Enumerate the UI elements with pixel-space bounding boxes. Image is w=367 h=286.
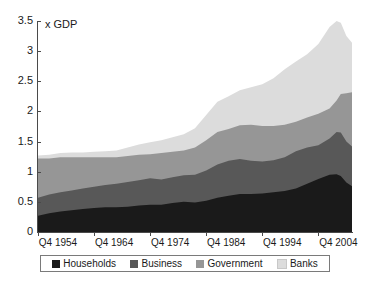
y-tick-label: 2 — [0, 105, 33, 116]
y-tick-label: 0 — [0, 226, 33, 237]
legend-label-households: Households — [63, 259, 116, 269]
plot-area — [38, 21, 352, 232]
y-tick-mark — [37, 142, 41, 143]
legend-swatch-business — [130, 260, 138, 268]
y-tick-label: 0.5 — [0, 196, 33, 207]
y-tick-label: 2.5 — [0, 75, 33, 86]
y-tick-mark — [37, 21, 41, 22]
legend-item-households: Households — [52, 259, 116, 269]
x-tick-mark — [262, 232, 263, 236]
chart-legend: Households Business Government Banks — [40, 255, 330, 272]
y-tick-mark — [37, 81, 41, 82]
x-tick-label: Q4 1954 — [39, 238, 77, 248]
legend-label-business: Business — [141, 259, 182, 269]
y-tick-label: 1 — [0, 166, 33, 177]
y-tick-label: 3.5 — [0, 15, 33, 26]
x-tick-label: Q4 1974 — [151, 238, 189, 248]
legend-item-banks: Banks — [277, 259, 318, 269]
x-axis-line — [37, 232, 353, 233]
y-tick-mark — [37, 172, 41, 173]
x-tick-mark — [38, 232, 39, 236]
legend-swatch-households — [52, 260, 60, 268]
y-tick-label: 1.5 — [0, 136, 33, 147]
legend-swatch-banks — [277, 259, 287, 269]
x-tick-label: Q4 2004 — [319, 238, 357, 248]
y-tick-label: 3 — [0, 45, 33, 56]
legend-item-business: Business — [130, 259, 182, 269]
legend-swatch-government — [196, 260, 204, 268]
x-tick-label: Q4 1994 — [263, 238, 301, 248]
y-tick-mark — [37, 51, 41, 52]
x-tick-label: Q4 1964 — [95, 238, 133, 248]
x-tick-label: Q4 1984 — [207, 238, 245, 248]
stacked-area-chart-figure: x GDP 3.532.521.510.50 Q4 1954Q4 1964Q4 … — [0, 0, 367, 286]
x-tick-mark — [318, 232, 319, 236]
area-series-canvas — [38, 21, 352, 232]
x-tick-mark — [150, 232, 151, 236]
x-tick-mark — [94, 232, 95, 236]
legend-label-banks: Banks — [290, 259, 318, 269]
legend-item-government: Government — [196, 259, 262, 269]
y-tick-mark — [37, 111, 41, 112]
y-tick-mark — [37, 202, 41, 203]
x-tick-mark — [206, 232, 207, 236]
legend-label-government: Government — [207, 259, 262, 269]
